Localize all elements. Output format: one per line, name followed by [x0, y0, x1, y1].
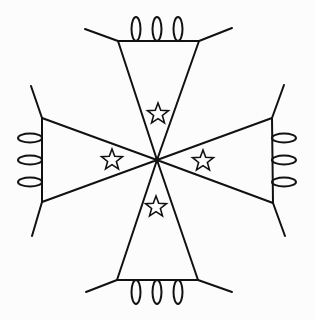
loop-icon-bottom-3	[174, 280, 183, 304]
loop-icon-left-1	[18, 134, 42, 143]
star-icon-bottom	[146, 196, 167, 216]
star-icon-left	[102, 149, 123, 169]
diagram-canvas	[0, 0, 315, 320]
external-leg-right-1	[272, 85, 284, 118]
blob-wedge-left	[42, 118, 157, 202]
loop-icon-right-2	[272, 156, 296, 165]
arm-right	[157, 85, 296, 236]
center-vertex-dot	[155, 158, 159, 162]
loop-icon-right-3	[272, 178, 296, 187]
loop-icon-bottom-2	[153, 280, 162, 304]
external-leg-right-2	[273, 203, 285, 236]
loop-icon-top-3	[174, 17, 183, 41]
external-leg-bottom-2	[198, 280, 232, 292]
feynman-diagram	[0, 0, 315, 320]
blob-wedge-bottom	[117, 160, 198, 280]
arm-left	[18, 86, 157, 236]
external-leg-top-2	[199, 28, 232, 41]
star-icon-top	[148, 103, 169, 123]
external-leg-top-1	[85, 29, 118, 41]
loop-icon-top-1	[132, 17, 141, 41]
external-leg-left-1	[31, 86, 42, 118]
arm-top	[85, 17, 232, 160]
blob-wedge-right	[157, 118, 273, 203]
blob-wedge-top	[118, 41, 199, 160]
loop-icon-left-2	[18, 156, 42, 165]
loop-icon-top-2	[153, 17, 162, 41]
external-leg-bottom-1	[86, 280, 117, 292]
loop-icon-bottom-1	[132, 280, 141, 304]
loop-icon-right-1	[272, 134, 296, 143]
loop-icon-left-3	[18, 178, 42, 187]
external-leg-left-2	[32, 202, 42, 236]
arm-bottom	[86, 160, 232, 304]
star-icon-right	[193, 150, 214, 170]
